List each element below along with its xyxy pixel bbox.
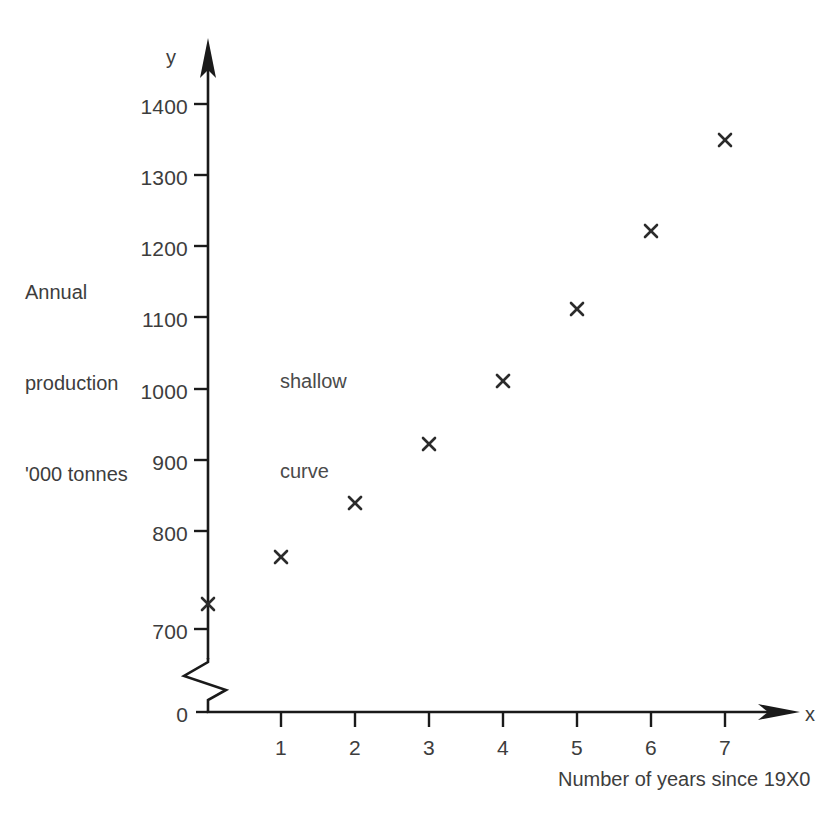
data-point-marker xyxy=(645,225,657,237)
data-point-marker xyxy=(571,303,583,315)
x-tick-label-4: 4 xyxy=(483,733,523,763)
x-tick-label-1: 1 xyxy=(261,733,301,763)
data-point-marker xyxy=(423,438,435,450)
data-point-marker xyxy=(719,134,731,146)
y-axis-break-icon xyxy=(184,658,226,712)
y-tick-label-1400: 1400 xyxy=(116,92,188,122)
data-point-marker xyxy=(349,497,361,509)
y-axis-title-line-3: '000 tonnes xyxy=(25,459,128,489)
shallow-curve-annotation: shallow curve xyxy=(280,306,347,546)
x-tick-label-2: 2 xyxy=(335,733,375,763)
y-axis-title-line-1: Annual xyxy=(25,277,128,307)
chart-page: y x 1400 1300 1200 1100 1000 900 800 700… xyxy=(0,0,828,817)
annotation-line-1: shallow xyxy=(280,366,347,396)
x-tick-label-7: 7 xyxy=(705,733,745,763)
x-axis-symbol-label: x xyxy=(805,700,815,728)
y-axis-title: Annual production '000 tonnes xyxy=(25,216,128,550)
x-axis-title: Number of years since 19X0 xyxy=(558,765,810,793)
x-tick-label-3: 3 xyxy=(409,733,449,763)
y-axis-title-line-2: production xyxy=(25,368,128,398)
y-axis-symbol-label: y xyxy=(166,43,176,71)
y-tick-label-1300: 1300 xyxy=(116,163,188,193)
annotation-line-2: curve xyxy=(280,456,347,486)
x-tick-label-6: 6 xyxy=(631,733,671,763)
y-tick-label-700: 700 xyxy=(116,617,188,647)
data-point-marker xyxy=(497,375,509,387)
origin-label: 0 xyxy=(152,700,188,730)
data-point-marker xyxy=(275,551,287,563)
x-tick-label-5: 5 xyxy=(557,733,597,763)
